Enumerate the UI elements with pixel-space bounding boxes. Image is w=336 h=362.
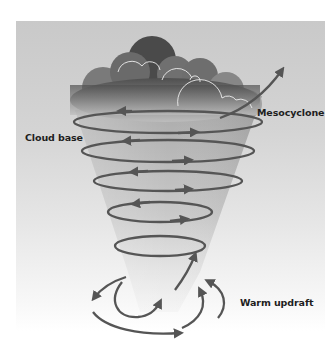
- label-cloud-base: Cloud base: [25, 132, 83, 143]
- label-mesocyclone: Mesocyclone: [257, 107, 324, 118]
- label-warm-updraft: Warm updraft: [240, 297, 313, 308]
- storm-cloud: [70, 36, 262, 122]
- tornado-funnel: [75, 96, 262, 312]
